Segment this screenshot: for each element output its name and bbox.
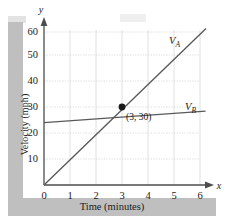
x-tick-5: 5	[171, 190, 176, 201]
y-tick-30: 30	[28, 101, 39, 112]
x-tick-labels: 0 1 2 3 4 5 6	[41, 190, 202, 201]
y-axis-variable-label: y	[38, 4, 44, 15]
velocity-time-graph-figure: Velocity (mph) Time (minutes)	[0, 0, 228, 224]
series-line-vb	[44, 111, 206, 122]
y-tick-60: 60	[28, 26, 39, 37]
x-tick-0: 0	[41, 190, 46, 201]
x-tick-2: 2	[93, 190, 98, 201]
y-tick-20: 20	[28, 127, 39, 138]
x-tick-6: 6	[197, 190, 202, 201]
x-tick-4: 4	[145, 190, 151, 201]
y-tick-50: 50	[28, 49, 39, 60]
series-label-va: VA	[169, 35, 180, 49]
plot-area: y x 0 1 2 3 4 5 6 10 20 30 40 50 60 (3, …	[0, 0, 228, 224]
y-tick-40: 40	[28, 75, 39, 86]
x-tick-1: 1	[67, 190, 72, 201]
intersection-point-marker	[119, 104, 126, 111]
y-tick-10: 10	[28, 153, 39, 164]
x-axis	[44, 182, 214, 189]
y-tick-labels: 10 20 30 40 50 60	[28, 26, 39, 164]
y-axis	[41, 17, 48, 185]
intersection-point-label: (3, 30)	[126, 112, 151, 123]
x-axis-variable-label: x	[216, 180, 222, 191]
x-tick-3: 3	[119, 190, 124, 201]
